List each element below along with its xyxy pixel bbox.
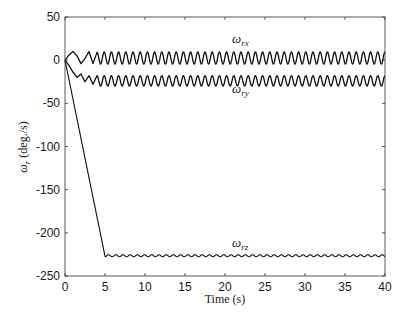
y-tick-label: -150 [36, 183, 60, 197]
svg-text:ωr (deg./s): ωr (deg./s) [16, 121, 32, 172]
chart-canvas: 500-50-100-150-200-250 0510152025303540 … [0, 0, 406, 326]
y-tick-label: -100 [36, 140, 60, 154]
x-axis-ticks: 0510152025303540 [62, 17, 392, 294]
series-line-ry [65, 60, 385, 86]
x-tick-label: 10 [138, 280, 152, 294]
y-tick-label: -50 [43, 96, 61, 110]
x-tick-label: 15 [178, 280, 192, 294]
y-tick-label: -200 [36, 226, 60, 240]
x-tick-label: 30 [298, 280, 312, 294]
x-tick-label: 5 [102, 280, 109, 294]
x-tick-label: 35 [338, 280, 352, 294]
series-line-rz [65, 60, 385, 257]
x-tick-label: 0 [62, 280, 69, 294]
y-tick-label: -250 [36, 269, 60, 283]
x-tick-label: 25 [258, 280, 272, 294]
series-label-rz: ωrz [232, 235, 249, 252]
y-axis-ticks: 500-50-100-150-200-250 [36, 10, 385, 283]
x-tick-label: 40 [378, 280, 392, 294]
series-label-rx: ωrx [232, 31, 249, 48]
y-tick-label: 50 [47, 10, 61, 24]
plot-lines [65, 52, 385, 257]
series-line-rx [65, 52, 385, 65]
y-tick-label: 0 [53, 53, 60, 67]
x-axis-title: Time (s) [205, 292, 246, 306]
y-axis-title: ωr (deg./s) [16, 121, 32, 172]
